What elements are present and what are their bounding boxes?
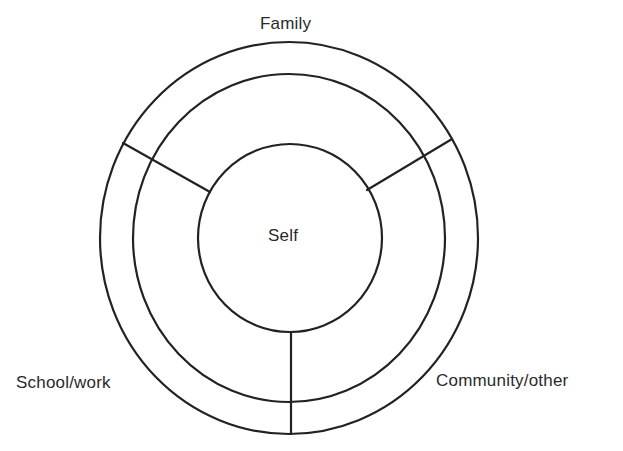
divider-family-school (123, 143, 210, 192)
family-label: Family (260, 15, 311, 32)
divider-family-community (367, 139, 452, 190)
self-label: Self (268, 227, 298, 244)
school-work-label: School/work (16, 374, 111, 391)
community-other-label: Community/other (436, 372, 568, 389)
